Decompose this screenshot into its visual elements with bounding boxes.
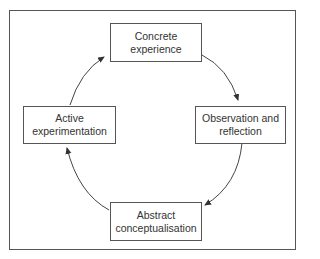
node-label-line: Abstract xyxy=(115,209,196,222)
arrow-abstract-to-active xyxy=(67,148,109,210)
arrow-observation-to-abstract xyxy=(205,143,242,205)
node-label-line: Concrete xyxy=(130,30,181,43)
node-abstract-conceptualisation: Abstract conceptualisation xyxy=(110,202,202,241)
node-label-line: experimentation xyxy=(32,125,107,138)
arrow-active-to-concrete xyxy=(70,57,104,105)
arrow-concrete-to-observation xyxy=(202,55,238,100)
node-concrete-experience: Concrete experience xyxy=(110,23,202,62)
node-label-line: Observation and xyxy=(202,112,279,125)
node-label-line: conceptualisation xyxy=(115,222,196,235)
node-active-experimentation: Active experimentation xyxy=(23,106,116,144)
node-label-line: reflection xyxy=(202,125,279,138)
node-label-line: Active xyxy=(32,112,107,125)
node-observation-and-reflection: Observation and reflection xyxy=(195,106,286,144)
node-label-line: experience xyxy=(130,43,181,56)
